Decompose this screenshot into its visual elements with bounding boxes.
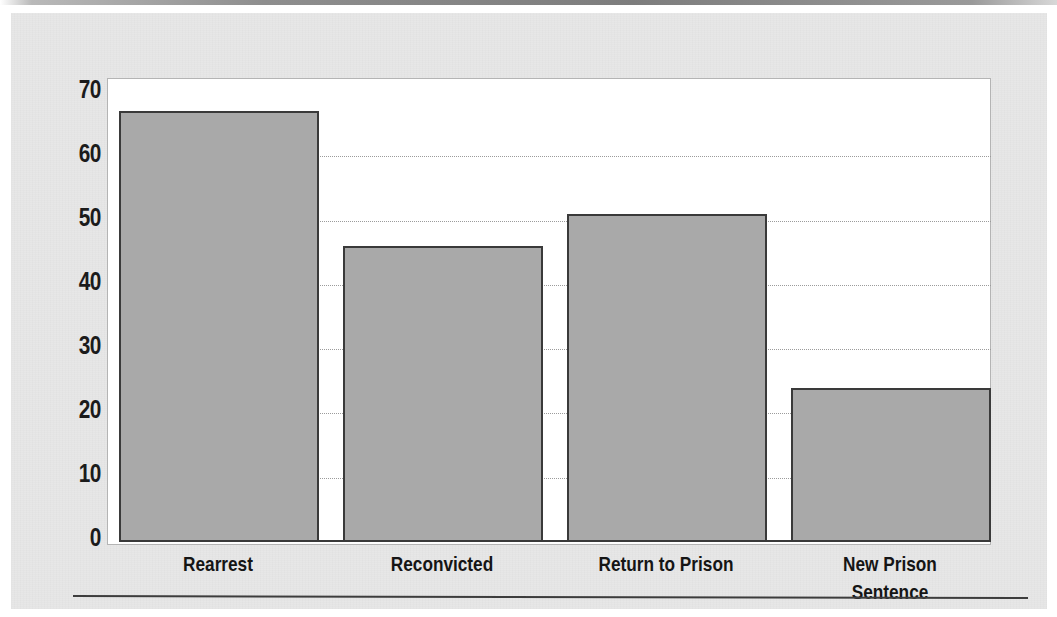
y-tick-label-30: 30 [61,332,101,358]
bar-chart: 70 60 50 40 30 20 10 0 [11,13,1047,609]
bar-new-prison-sentence[interactable] [791,388,991,542]
figure-panel: 70 60 50 40 30 20 10 0 [11,13,1047,609]
top-scan-edge-band [0,0,1057,5]
y-tick-label-50: 50 [61,204,101,230]
x-axis-baseline [119,540,991,542]
y-tick-label-40: 40 [61,268,101,294]
x-tick-label-return-to-prison: Return to Prison [584,550,748,584]
x-tick-label-reconvicted: Reconvicted [360,550,524,584]
y-tick-label-0: 0 [61,524,101,550]
bars-layer [119,92,991,542]
x-tick-label-new-prison-sentence: New Prison Sentence [808,550,972,584]
y-tick-label-20: 20 [61,396,101,422]
scanned-figure-page: 70 60 50 40 30 20 10 0 [0,0,1057,617]
y-axis: 70 60 50 40 30 20 10 0 [51,13,101,609]
bar-return-to-prison[interactable] [567,214,767,542]
bar-reconvicted[interactable] [343,246,543,542]
y-tick-label-10: 10 [61,460,101,486]
plot-frame [107,78,991,545]
y-tick-label-70: 70 [61,76,101,102]
bar-rearrest[interactable] [119,111,319,542]
plot-area [119,92,991,542]
x-axis: Rearrest Reconvicted Return to Prison Ne… [118,550,990,584]
x-tick-label-rearrest: Rearrest [136,550,300,584]
y-tick-label-60: 60 [61,140,101,166]
